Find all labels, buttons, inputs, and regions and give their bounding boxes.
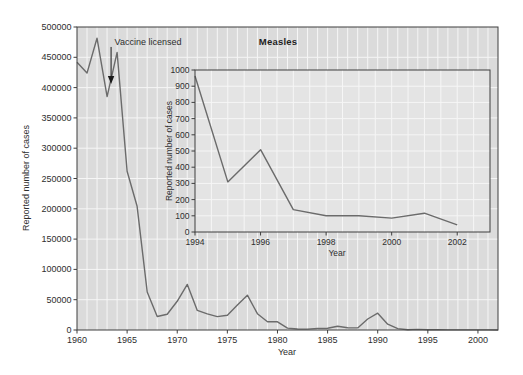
inset-chart-y-tick-label: 800 [175,97,189,107]
vaccine-licensed-annotation: Vaccine licensed [115,37,182,47]
main-chart-y-tick-label: 350000 [41,113,71,123]
inset-chart-x-tick-label: 1996 [251,237,270,247]
inset-chart-y-tick-label: 900 [175,81,189,91]
main-chart-x-tick-label: 1960 [67,335,87,345]
main-chart-y-tick-label: 150000 [41,234,71,244]
inset-chart-y-tick-label: 100 [175,211,189,221]
inset-chart-y-tick-label: 1000 [171,65,190,75]
main-chart-y-tick-label: 100000 [41,264,71,274]
inset-chart-y-tick-label: 200 [175,195,189,205]
main-chart-y-tick-label: 300000 [41,143,71,153]
main-chart-x-tick-label: 1965 [117,335,137,345]
main-chart-x-tick-label: 1970 [167,335,187,345]
inset-chart-x-tick-label: 1994 [186,237,205,247]
main-chart-x-tick-label: 1980 [267,335,287,345]
inset-chart-x-tick-label: 2000 [382,237,401,247]
inset-chart-y-tick-label: 700 [175,114,189,124]
chart-canvas: 1960196519701975198019851990199520000500… [0,0,523,375]
inset-x-axis-label: Year [328,248,345,258]
main-chart-y-tick-label: 450000 [41,52,71,62]
inset-chart-x-tick-label: 1998 [317,237,336,247]
inset-chart-y-tick-label: 0 [185,227,190,237]
inset-chart-y-tick-label: 500 [175,146,189,156]
main-chart-y-tick-label: 200000 [41,204,71,214]
main-y-axis-label: Reported number of cases [21,125,31,231]
inset-chart-y-tick-label: 400 [175,162,189,172]
main-chart-x-tick-label: 1975 [217,335,237,345]
main-chart-y-tick-label: 400000 [41,83,71,93]
inset-chart-y-tick-label: 600 [175,130,189,140]
main-chart-y-tick-label: 500000 [41,22,71,32]
main-chart-y-tick-label: 0 [66,325,71,335]
main-chart-y-tick-label: 250000 [41,174,71,184]
main-chart-x-tick-label: 1995 [418,335,438,345]
main-chart-y-tick-label: 50000 [46,295,71,305]
main-chart-x-tick-label: 2000 [468,335,488,345]
main-chart-x-tick-label: 1985 [318,335,338,345]
chart-title: Measles [259,36,297,47]
inset-chart-x-tick-label: 2002 [448,237,467,247]
inset-y-axis-label: Reported number of cases [164,101,174,201]
main-x-axis-label: Year [278,347,296,357]
main-chart-x-tick-label: 1990 [368,335,388,345]
measles-figure: 1960196519701975198019851990199520000500… [0,0,523,375]
inset-chart-y-tick-label: 300 [175,178,189,188]
